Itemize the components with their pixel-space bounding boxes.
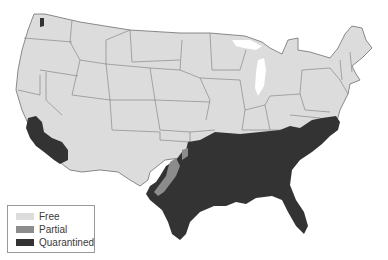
legend-swatch-quarantined <box>16 239 34 246</box>
legend-swatch-free <box>16 213 34 220</box>
legend-item-partial: Partial <box>16 224 67 235</box>
legend-label-free: Free <box>39 211 60 222</box>
legend-label-quarantined: Quarantined <box>39 237 94 248</box>
legend-item-free: Free <box>16 211 60 222</box>
map-legend: Free Partial Quarantined <box>7 205 95 253</box>
legend-item-quarantined: Quarantined <box>16 237 94 248</box>
quarantined-region-washington <box>40 18 44 27</box>
legend-label-partial: Partial <box>39 224 67 235</box>
legend-swatch-partial <box>16 226 34 233</box>
